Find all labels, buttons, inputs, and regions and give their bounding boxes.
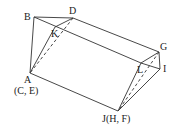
label-d: D bbox=[69, 5, 76, 16]
edge-bd bbox=[34, 17, 73, 18]
edge-kd bbox=[55, 18, 73, 27]
edge-dg bbox=[73, 18, 159, 52]
edge-lg bbox=[141, 52, 159, 63]
edge-ij bbox=[118, 69, 160, 111]
edge-ba bbox=[30, 17, 34, 73]
label-i: I bbox=[163, 63, 166, 74]
label-l: L bbox=[137, 64, 143, 75]
label-a: A bbox=[24, 74, 32, 85]
label-k: K bbox=[51, 28, 59, 39]
edge-li bbox=[141, 63, 160, 69]
geometry-diagram: B D K A (C, E) G L I J(H, F) bbox=[0, 0, 173, 135]
edge-da-dashed bbox=[30, 18, 73, 73]
label-j: J(H, F) bbox=[102, 113, 130, 125]
edge-gj-dashed bbox=[118, 52, 159, 111]
edge-gi bbox=[159, 52, 160, 69]
label-a-sub: (C, E) bbox=[14, 85, 38, 97]
label-b: B bbox=[24, 11, 31, 22]
label-g: G bbox=[160, 41, 167, 52]
edge-aj bbox=[30, 73, 118, 111]
